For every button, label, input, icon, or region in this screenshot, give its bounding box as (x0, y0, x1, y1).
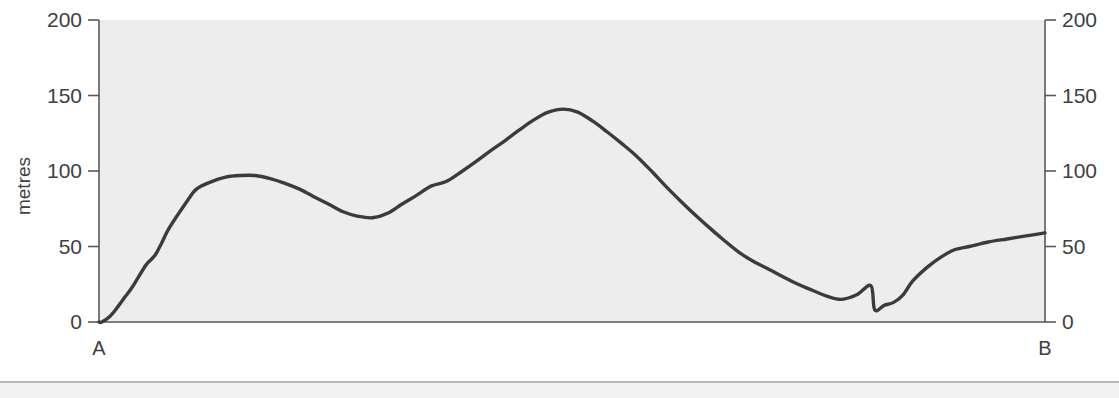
y-tick-label-right-150: 150 (1062, 84, 1097, 107)
x-axis-end-label: B (1038, 337, 1051, 359)
y-tick-label-left-150: 150 (47, 84, 82, 107)
y-tick-label-right-0: 0 (1062, 310, 1074, 333)
x-axis-start-label: A (92, 337, 106, 359)
elevation-profile-chart: 200 150 100 50 0 200 150 100 50 0 metres… (0, 0, 1119, 398)
y-tick-label-left-50: 50 (59, 235, 82, 258)
y-tick-label-right-50: 50 (1062, 235, 1085, 258)
y-tick-label-left-200: 200 (47, 8, 82, 31)
y-tick-label-right-100: 100 (1062, 159, 1097, 182)
y-axis-title: metres (13, 157, 34, 215)
plot-area-background (99, 20, 1045, 322)
y-tick-label-right-200: 200 (1062, 8, 1097, 31)
elevation-profile-figure: 200 150 100 50 0 200 150 100 50 0 metres… (0, 0, 1119, 398)
y-tick-label-left-100: 100 (47, 159, 82, 182)
footer-band (0, 383, 1119, 398)
y-tick-label-left-0: 0 (70, 310, 82, 333)
